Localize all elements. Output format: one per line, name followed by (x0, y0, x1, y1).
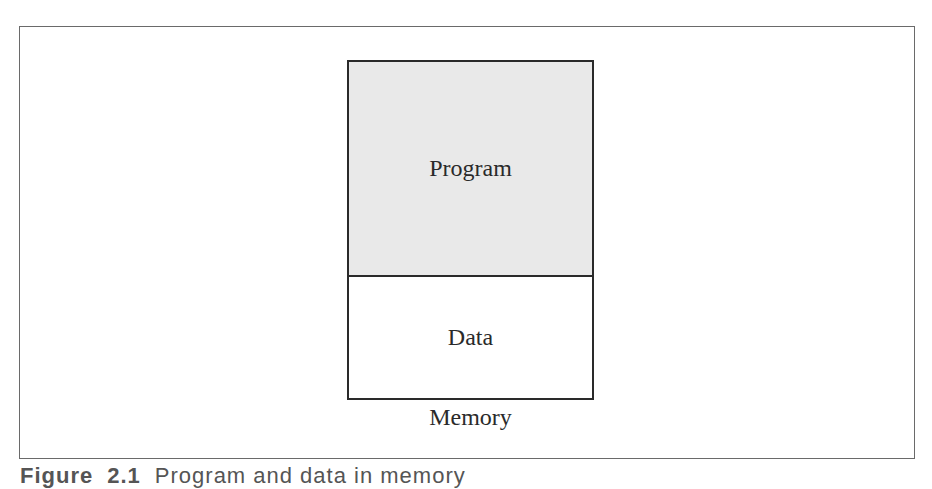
program-label: Program (429, 155, 512, 182)
data-segment: Data (349, 277, 592, 398)
figure-caption: Figure2.1Program and data in memory (20, 463, 466, 489)
caption-number: 2.1 (107, 463, 141, 488)
program-segment: Program (349, 62, 592, 277)
memory-label: Memory (347, 404, 594, 431)
caption-prefix: Figure (20, 463, 93, 488)
caption-text: Program and data in memory (155, 463, 466, 488)
memory-block: Program Data (347, 60, 594, 400)
data-label: Data (448, 324, 493, 351)
